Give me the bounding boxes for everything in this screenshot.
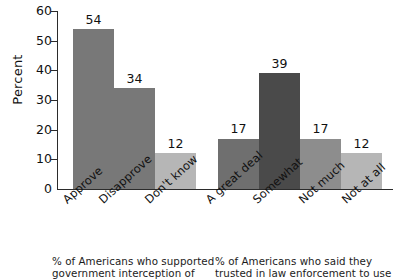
caption-left-line1: % of Americans who supported <box>52 256 214 268</box>
caption-right: % of Americans who said they trusted in … <box>215 256 391 279</box>
bar-value-a-great-deal: 17 <box>218 123 259 136</box>
bar-value-not-much: 17 <box>300 123 341 136</box>
bar-value-approve: 54 <box>73 14 114 27</box>
bar-value-disapprove: 34 <box>114 73 155 86</box>
caption-right-line2: trusted in law enforcement to use <box>215 268 391 279</box>
bar-value-dont-know: 12 <box>155 138 196 151</box>
caption-left: % of Americans who supported government … <box>52 256 214 279</box>
caption-right-line1: % of Americans who said they <box>215 256 391 268</box>
bar-value-somewhat: 39 <box>259 58 300 71</box>
bar-value-not-at-all: 12 <box>341 138 382 151</box>
caption-left-line2: government interception of <box>52 268 214 279</box>
